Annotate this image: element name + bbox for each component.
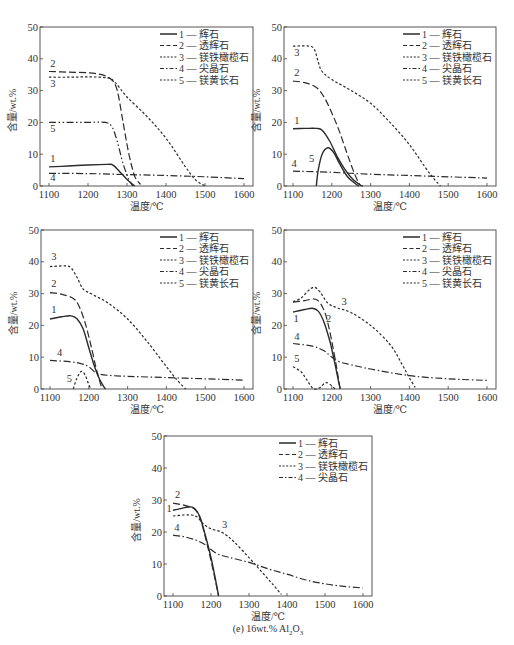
x-tick-label: 1400 xyxy=(399,189,420,200)
legend-item-label: 2 — 透辉石 xyxy=(179,40,229,51)
y-axis: 01020304050 xyxy=(29,225,45,395)
y-tick-label: 10 xyxy=(272,352,283,363)
series-number-label: 4 xyxy=(292,158,298,169)
y-axis: 01020304050 xyxy=(152,431,168,602)
series-line-1 xyxy=(173,507,219,596)
y-tick-label: 0 xyxy=(157,591,162,602)
y-tick-label: 20 xyxy=(272,117,283,128)
x-tick-label: 1200 xyxy=(201,599,222,610)
series-number-label: 1 xyxy=(167,503,172,514)
x-axis-label: 温度/℃ xyxy=(251,610,285,622)
x-tick-label: 1200 xyxy=(321,392,342,403)
legend-item-label: 5 — 镁黄长石 xyxy=(422,277,482,289)
legend: 1 — 辉石2 — 透辉石3 — 镁铁橄榄石4 — 尖晶石5 — 镁黄长石 xyxy=(403,29,492,86)
x-tick-label: 1300 xyxy=(360,392,381,403)
x-tick-label: 1500 xyxy=(195,189,216,200)
series-line-5 xyxy=(293,367,335,389)
series-number-label: 4 xyxy=(57,347,63,358)
chart-svg-b: 01020304050110012001300140015001600含量/wt… xyxy=(244,0,514,215)
legend-item-label: 5 — 镁黄长石 xyxy=(179,74,239,86)
x-tick-label: 1200 xyxy=(78,392,99,403)
legend-item-label: 3 — 镁铁橄榄石 xyxy=(298,460,368,472)
y-tick-label: 30 xyxy=(272,288,283,299)
legend: 1 — 辉石2 — 透辉石3 — 镁铁橄榄石4 — 尖晶石 xyxy=(279,438,368,484)
x-tick-label: 1400 xyxy=(156,189,177,200)
y-tick-label: 40 xyxy=(272,256,283,267)
legend-item-label: 2 — 透辉石 xyxy=(179,243,229,254)
x-axis: 110012001300140015001600 xyxy=(163,593,374,610)
series-number-label: 2 xyxy=(51,278,56,289)
legend-item-label: 3 — 镁铁橄榄石 xyxy=(422,51,492,63)
y-tick-label: 10 xyxy=(28,149,39,160)
series-number-label: 3 xyxy=(342,296,347,307)
chart-panel-b: 01020304050110012001300140015001600含量/wt… xyxy=(244,0,514,215)
chart-svg-a: 01020304050110012001300140015001600含量/wt… xyxy=(0,0,257,215)
series-number-label: 2 xyxy=(175,489,180,500)
series-line-5 xyxy=(49,122,133,186)
x-tick-label: 1100 xyxy=(163,599,184,610)
x-axis: 110012001300140015001600 xyxy=(40,386,255,403)
series-number-label: 3 xyxy=(294,47,299,58)
legend-item-label: 1 — 辉石 xyxy=(179,29,219,40)
y-axis-label: 含量/wt.% xyxy=(6,89,18,133)
legend-item-label: 1 — 辉石 xyxy=(298,438,338,449)
x-tick-label: 1400 xyxy=(277,599,298,610)
y-tick-label: 50 xyxy=(272,225,283,236)
x-tick-label: 1200 xyxy=(78,189,99,200)
series-line-2 xyxy=(50,293,102,388)
series-number-label: 5 xyxy=(309,153,314,164)
series-line-1 xyxy=(293,128,363,186)
y-tick-label: 20 xyxy=(152,527,163,538)
y-tick-label: 40 xyxy=(272,53,283,64)
series-line-3 xyxy=(293,46,440,186)
series-line-5 xyxy=(73,371,90,389)
x-tick-label: 1500 xyxy=(438,189,459,200)
y-axis-label: 含量/wt.% xyxy=(250,89,262,133)
legend-item-label: 4 — 尖晶石 xyxy=(422,62,472,74)
series-line-2 xyxy=(293,299,340,389)
x-tick-label: 1400 xyxy=(399,392,420,403)
series-line-2 xyxy=(293,81,360,184)
y-tick-label: 40 xyxy=(29,256,40,267)
legend-item-label: 5 — 镁黄长石 xyxy=(179,277,239,289)
chart-panel-e: 01020304050110012001300140015001600含量/wt… xyxy=(124,409,394,645)
series-number-label: 5 xyxy=(50,123,55,134)
x-tick-label: 1100 xyxy=(283,392,304,403)
y-tick-label: 0 xyxy=(277,181,282,192)
series-number-label: 2 xyxy=(326,313,331,324)
legend-item-label: 2 — 透辉石 xyxy=(422,40,472,51)
series-line-3 xyxy=(50,266,186,389)
x-tick-label: 1100 xyxy=(283,189,304,200)
series-line-4 xyxy=(293,171,487,178)
series-number-label: 4 xyxy=(294,331,300,342)
y-tick-label: 0 xyxy=(34,384,39,395)
legend-item-label: 3 — 镁铁橄榄石 xyxy=(179,254,249,266)
series-group xyxy=(173,503,363,596)
series-line-2 xyxy=(49,72,141,185)
series-number-label: 3 xyxy=(222,519,227,530)
chart-panel-a: 01020304050110012001300140015001600含量/wt… xyxy=(0,0,257,215)
y-tick-label: 40 xyxy=(28,53,39,64)
y-tick-label: 40 xyxy=(152,463,163,474)
y-axis: 01020304050 xyxy=(272,225,288,395)
y-tick-label: 30 xyxy=(28,85,39,96)
legend: 1 — 辉石2 — 透辉石3 — 镁铁橄榄石4 — 尖晶石5 — 镁黄长石 xyxy=(160,232,249,289)
series-line-3 xyxy=(293,287,415,387)
x-tick-label: 1300 xyxy=(360,189,381,200)
series-group xyxy=(293,287,487,389)
y-tick-label: 20 xyxy=(272,320,283,331)
x-tick-label: 1500 xyxy=(438,392,459,403)
y-tick-label: 20 xyxy=(29,320,40,331)
y-tick-label: 50 xyxy=(152,431,163,442)
series-line-4 xyxy=(173,535,363,588)
x-tick-label: 1100 xyxy=(40,392,61,403)
chart-svg-c: 01020304050110012001300140015001600含量/wt… xyxy=(0,203,257,418)
series-line-5 xyxy=(316,148,359,186)
x-tick-label: 1600 xyxy=(477,189,498,200)
y-tick-label: 50 xyxy=(28,22,39,33)
x-tick-label: 1100 xyxy=(39,189,60,200)
x-tick-label: 1400 xyxy=(156,392,177,403)
y-tick-label: 30 xyxy=(272,85,283,96)
legend-item-label: 2 — 透辉石 xyxy=(298,449,348,460)
series-number-label: 5 xyxy=(67,373,72,384)
